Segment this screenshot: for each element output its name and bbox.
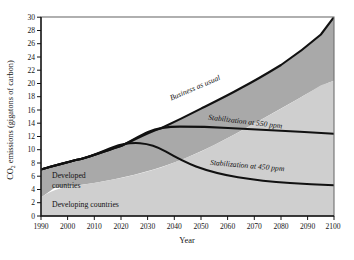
y-tick-8: 8 xyxy=(31,159,35,168)
svg-text:CO2 emissions (gigatons of car: CO2 emissions (gigatons of carbon) xyxy=(6,60,16,180)
x-tick-2050: 2050 xyxy=(193,222,208,231)
x-tick-2010: 2010 xyxy=(87,222,102,231)
y-tick-18: 18 xyxy=(27,92,35,101)
x-tick-2000: 2000 xyxy=(60,222,75,231)
x-tick-2030: 2030 xyxy=(140,222,155,231)
chart-figure: 0 2 4 6 8 10 12 14 16 18 20 22 24 26 28 … xyxy=(0,0,354,260)
y-tick-26: 26 xyxy=(27,39,35,48)
y-tick-6: 6 xyxy=(31,172,35,181)
y-tick-20: 20 xyxy=(27,79,35,88)
y-axis-ticks: 0 2 4 6 8 10 12 14 16 18 20 22 24 26 28 … xyxy=(27,13,41,221)
x-tick-2020: 2020 xyxy=(113,222,128,231)
y-tick-24: 24 xyxy=(27,53,35,62)
x-axis-ticks: 1990 2000 2010 2020 2030 2040 2050 2060 … xyxy=(33,216,340,231)
x-tick-2070: 2070 xyxy=(247,222,262,231)
x-axis-title: Year xyxy=(179,236,195,245)
x-tick-1990: 1990 xyxy=(33,222,48,231)
y-tick-14: 14 xyxy=(27,119,35,128)
x-tick-2060: 2060 xyxy=(220,222,235,231)
label-developed-countries-line2: countries xyxy=(52,181,81,190)
y-tick-22: 22 xyxy=(27,66,35,75)
y-tick-28: 28 xyxy=(27,26,35,35)
emissions-chart: 0 2 4 6 8 10 12 14 16 18 20 22 24 26 28 … xyxy=(0,0,354,260)
y-tick-30: 30 xyxy=(27,13,35,22)
x-tick-2040: 2040 xyxy=(167,222,182,231)
label-developed-countries-line1: Developed xyxy=(52,171,86,180)
y-axis-title: CO2 emissions (gigatons of carbon) xyxy=(6,60,16,180)
y-axis-title-rest: emissions (gigatons of carbon) xyxy=(6,60,15,165)
label-developing-countries: Developing countries xyxy=(52,200,119,209)
y-tick-10: 10 xyxy=(27,145,35,154)
x-tick-2100: 2100 xyxy=(325,222,340,231)
x-tick-2090: 2090 xyxy=(300,222,315,231)
y-tick-2: 2 xyxy=(31,198,35,207)
y-tick-12: 12 xyxy=(27,132,35,141)
x-tick-2080: 2080 xyxy=(273,222,288,231)
y-tick-0: 0 xyxy=(31,212,35,221)
y-tick-16: 16 xyxy=(27,106,35,115)
y-tick-4: 4 xyxy=(31,185,35,194)
y-axis-title-co: CO xyxy=(6,168,15,180)
